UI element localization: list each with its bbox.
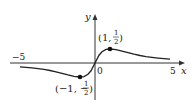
svg-text:2: 2 <box>114 38 118 46</box>
origin-label: 0 <box>97 66 103 76</box>
x-axis-label: x <box>181 65 187 76</box>
tick-label-5: 5 <box>170 66 176 76</box>
max-point <box>108 47 113 52</box>
svg-text:): ) <box>119 32 123 43</box>
min-point-label: (−1, − 1 2 ) <box>55 80 93 97</box>
y-axis-label: y <box>84 11 91 22</box>
min-point <box>78 75 83 80</box>
svg-text:2: 2 <box>84 89 88 97</box>
max-point-label: (1, 1 2 ) <box>98 29 123 46</box>
svg-text:(1,: (1, <box>98 32 111 43</box>
svg-text:1: 1 <box>84 80 88 88</box>
svg-text:1: 1 <box>114 29 118 37</box>
svg-text:): ) <box>89 83 93 94</box>
tick-label-neg5: −5 <box>12 52 26 62</box>
y-axis-arrow-icon <box>93 14 98 20</box>
graph-figure: y x 0 −5 5 (1, 1 2 ) (−1, − 1 2 ) <box>0 0 195 108</box>
